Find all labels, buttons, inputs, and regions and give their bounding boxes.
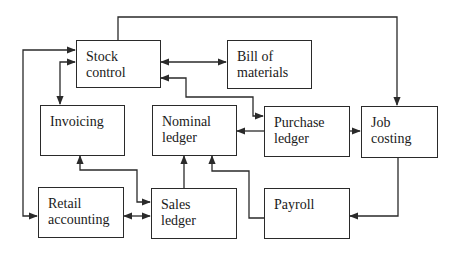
node-job-costing: Job costing (361, 106, 438, 158)
node-nominal-ledger: Nominal ledger (152, 105, 237, 156)
edge-stock-invoicing (60, 62, 75, 104)
node-label-line: Nominal (162, 114, 236, 130)
node-label-line: accounting (48, 212, 123, 228)
edge-jobcosting-payroll (350, 157, 398, 216)
node-label-line: Sales (161, 197, 236, 213)
node-label-line: control (86, 65, 160, 81)
node-label-line: Invoicing (50, 114, 124, 130)
accounting-systems-diagram: Stock control Bill of materials Invoicin… (0, 0, 462, 255)
node-label-line: costing (371, 131, 437, 147)
node-invoicing: Invoicing (40, 105, 125, 156)
node-label-line: ledger (162, 130, 236, 146)
node-stock-control: Stock control (76, 40, 161, 88)
node-label-line: Job (371, 115, 437, 131)
node-bill-of-materials: Bill of materials (227, 40, 312, 89)
node-label-line: ledger (161, 213, 236, 229)
node-purchase-ledger: Purchase ledger (264, 106, 350, 157)
node-retail-accounting: Retail accounting (38, 187, 124, 238)
node-label-line: Bill of (237, 49, 311, 65)
node-label-line: ledger (274, 131, 349, 147)
node-label-line: Purchase (274, 115, 349, 131)
node-label-line: Retail (48, 196, 123, 212)
node-payroll: Payroll (264, 188, 350, 239)
node-label-line: Payroll (274, 197, 349, 213)
node-label-line: Stock (86, 49, 160, 65)
node-label-line: materials (237, 65, 311, 81)
node-sales-ledger: Sales ledger (151, 188, 237, 239)
